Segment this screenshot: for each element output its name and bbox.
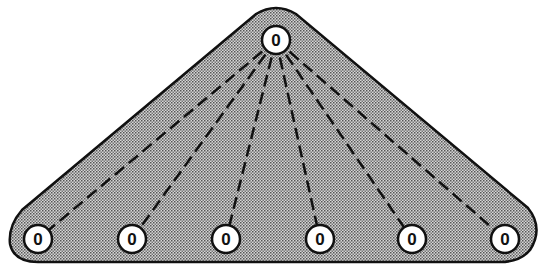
leaf-node: 0 [306, 225, 334, 253]
node-label: 0 [407, 230, 416, 249]
leaf-node: 0 [398, 225, 426, 253]
star-diagram: 0000000 [0, 0, 541, 278]
node-label: 0 [33, 230, 42, 249]
node-label: 0 [271, 31, 280, 50]
root-node: 0 [262, 26, 290, 54]
node-label: 0 [221, 230, 230, 249]
leaf-node: 0 [118, 225, 146, 253]
node-label: 0 [315, 230, 324, 249]
leaf-node: 0 [24, 225, 52, 253]
node-label: 0 [500, 230, 509, 249]
leaf-node: 0 [491, 225, 519, 253]
leaf-node: 0 [212, 225, 240, 253]
diagram-canvas: 0000000 [0, 0, 541, 278]
node-label: 0 [127, 230, 136, 249]
